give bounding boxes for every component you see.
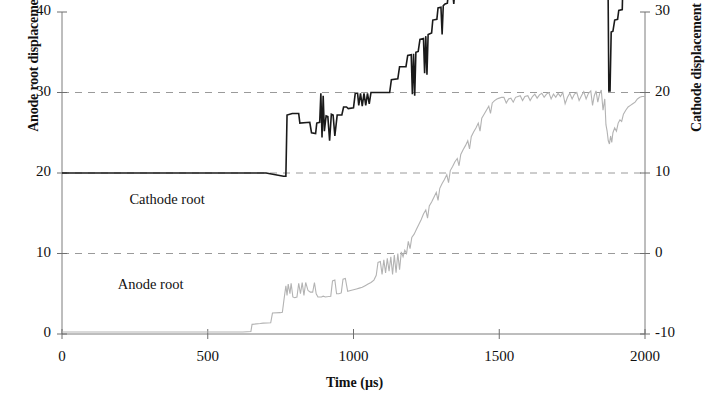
chart-figure: Anode root displacement (mm) Cathode dis… <box>0 0 709 406</box>
series-line-anode-root <box>62 90 645 332</box>
series-line-cathode-root <box>62 0 645 176</box>
y-axis-left-tick-label: 30 <box>17 83 51 100</box>
y-axis-left-tick-label: 0 <box>17 324 51 341</box>
y-axis-left-tick-label: 40 <box>17 2 51 19</box>
y-axis-right-tick-label: 30 <box>655 2 695 19</box>
y-axis-right-tick-label: 20 <box>655 83 695 100</box>
x-axis-tick-label: 500 <box>178 348 238 365</box>
x-axis-tick-label: 1000 <box>324 348 384 365</box>
y-axis-right-tick-label: 0 <box>655 244 695 261</box>
x-axis-tick-label: 0 <box>32 348 92 365</box>
y-axis-right-tick-label: 10 <box>655 163 695 180</box>
series-annotation: Cathode root <box>129 191 204 208</box>
plot-area <box>0 0 709 406</box>
y-axis-left-tick-label: 20 <box>17 163 51 180</box>
series-annotation: Anode root <box>118 276 184 293</box>
x-axis-tick-label: 2000 <box>615 348 675 365</box>
x-axis-tick-label: 1500 <box>469 348 529 365</box>
y-axis-right-tick-label: -10 <box>655 324 695 341</box>
y-axis-left-tick-label: 10 <box>17 244 51 261</box>
